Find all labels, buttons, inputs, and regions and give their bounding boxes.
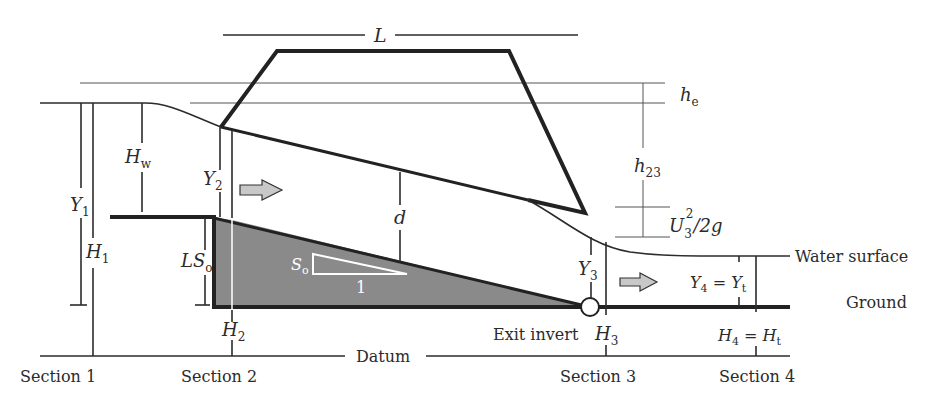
ground-label: Ground [846, 293, 907, 312]
headwater-label: Hw [124, 146, 152, 171]
y4-label: Y4 = Yt [690, 273, 747, 295]
slope-run-label: 1 [356, 278, 366, 297]
section-4-label: Section 4 [719, 367, 795, 386]
flow-arrow-inlet-icon [240, 180, 282, 200]
h2-label: H2 [221, 319, 245, 344]
flow-arrow-outlet-icon [620, 273, 657, 291]
h3-label: H3 [594, 323, 618, 348]
diameter-label: d [394, 206, 406, 228]
length-label: L [373, 24, 387, 46]
friction-loss-label: h23 [634, 155, 661, 180]
culvert-diagram: L he h23 U32/2g Hw Y1 H1 Y2 LSo H2 So 1 … [0, 0, 941, 404]
y3-label: Y3 [578, 258, 598, 283]
h1-label: H1 [85, 241, 109, 266]
y2-label: Y2 [203, 168, 223, 193]
y1-label: Y1 [70, 194, 90, 219]
section-1-label: Section 1 [20, 367, 96, 386]
section-3-label: Section 3 [560, 367, 636, 386]
exit-invert-label: Exit invert [493, 325, 579, 344]
velocity-head-label: U32/2g [669, 207, 723, 241]
drop-label: LSo [180, 250, 213, 275]
water-surface-label: Water surface [795, 247, 908, 266]
h4-label: H4 = Ht [717, 326, 781, 348]
headwater-surface [40, 103, 221, 127]
exit-invert-marker [581, 298, 599, 316]
section-2-label: Section 2 [181, 367, 257, 386]
datum-label: Datum [356, 347, 410, 366]
entrance-loss-label: he [680, 84, 699, 109]
